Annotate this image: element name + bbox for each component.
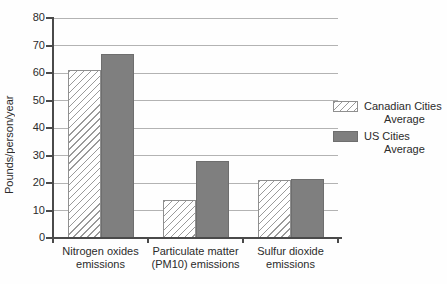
legend-label-us-line2: Average	[364, 143, 425, 156]
y-tick-label-30: 30	[13, 149, 45, 162]
x-tick-3	[337, 238, 339, 243]
legend-item-1: US CitiesAverage	[333, 130, 445, 156]
x-tick-0	[52, 238, 54, 243]
legend-label-us-line1: US Cities	[364, 130, 425, 143]
bar-canadian-1	[163, 200, 196, 239]
legend-swatch-us	[333, 131, 358, 142]
legend-label-us: US CitiesAverage	[364, 130, 425, 156]
bar-group-0	[53, 18, 148, 238]
y-tick-label-0: 0	[13, 231, 45, 244]
y-tick-label-40: 40	[13, 121, 45, 134]
y-tick-label-20: 20	[13, 176, 45, 189]
legend-item-0: Canadian CitiesAverage	[333, 100, 445, 126]
bar-us-0	[101, 54, 134, 238]
y-tick-label-70: 70	[13, 39, 45, 52]
emissions-bar-chart: Pounds/person/year 01020304050607080 Nit…	[0, 0, 447, 284]
legend-swatch-canadian	[333, 101, 358, 112]
x-axis-line	[52, 237, 342, 239]
y-tick-label-10: 10	[13, 204, 45, 217]
legend: Canadian CitiesAverageUS CitiesAverage	[333, 100, 445, 160]
category-label-2: Sulfur dioxide emissions	[243, 245, 338, 271]
bar-canadian-0	[68, 70, 101, 238]
legend-label-canadian: Canadian CitiesAverage	[364, 100, 442, 126]
bar-group-1	[148, 18, 243, 238]
bar-us-1	[196, 161, 229, 238]
x-tick-2	[242, 238, 244, 243]
x-tick-1	[147, 238, 149, 243]
bar-canadian-2	[258, 180, 291, 238]
y-tick-label-50: 50	[13, 94, 45, 107]
y-axis-label: Pounds/person/year	[3, 70, 15, 220]
bar-group-2	[243, 18, 338, 238]
category-labels: Nitrogen oxides emissionsParticulate mat…	[53, 245, 338, 271]
legend-label-canadian-line1: Canadian Cities	[364, 100, 442, 113]
category-label-0: Nitrogen oxides emissions	[53, 245, 148, 271]
y-tick-label-80: 80	[13, 11, 45, 24]
y-tick-label-60: 60	[13, 66, 45, 79]
category-label-1: Particulate matter (PM10) emissions	[148, 245, 243, 271]
bar-us-2	[291, 179, 324, 238]
plot-area	[53, 18, 338, 238]
legend-label-canadian-line2: Average	[364, 113, 442, 126]
